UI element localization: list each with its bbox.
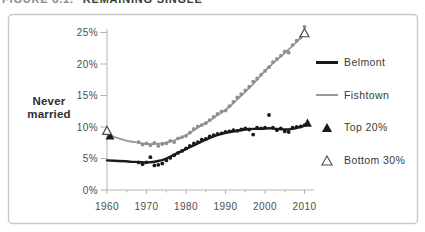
fishtown-dot: [149, 143, 153, 147]
belmont-dot: [204, 137, 208, 141]
y-tick-label: 20%: [77, 59, 98, 70]
belmont-dot: [220, 131, 224, 135]
belmont-dot: [149, 155, 153, 159]
y-tick-label: 5%: [83, 153, 98, 164]
belmont-dot: [216, 132, 220, 136]
belmont-dot: [259, 126, 263, 130]
fishtown-line-swatch: [316, 94, 338, 96]
belmont-dot: [141, 162, 145, 166]
belmont-dot: [291, 126, 295, 130]
legend-label-belmont: Belmont: [344, 56, 385, 68]
belmont-dot: [208, 135, 212, 139]
belmont-dot: [164, 159, 168, 163]
fishtown-dot: [259, 73, 263, 77]
belmont-dot: [224, 130, 228, 134]
belmont-line-swatch: [316, 61, 338, 64]
belmont-dot: [251, 133, 255, 137]
figure: FIGURE 8.1.REMAINING SINGLE 0%5%10%15%20…: [0, 0, 425, 232]
fishtown-dot: [200, 123, 204, 127]
y-axis-title-line1: Never: [20, 95, 78, 108]
y-tick-label: 10%: [77, 122, 98, 133]
fishtown-dot: [220, 109, 224, 113]
belmont-dot: [283, 130, 287, 134]
fishtown-dot: [247, 85, 251, 89]
belmont-dot: [145, 160, 149, 164]
x-tick-label: 2000: [253, 201, 277, 212]
fishtown-dot: [263, 69, 267, 73]
belmont-dot: [137, 160, 141, 164]
belmont-dot: [180, 149, 184, 153]
belmont-dot: [156, 163, 160, 167]
fishtown-dot: [267, 65, 271, 69]
fishtown-dot: [287, 51, 291, 55]
fishtown-dot: [208, 118, 212, 122]
belmont-dot: [200, 138, 204, 142]
belmont-dot: [168, 156, 172, 160]
fishtown-dot: [160, 142, 164, 146]
fishtown-dot: [224, 109, 228, 113]
fishtown-dot: [271, 60, 275, 64]
fishtown-dot: [168, 139, 172, 143]
y-axis-title: Never married: [20, 95, 78, 120]
legend-item-top20: Top 20%: [316, 121, 388, 133]
belmont-dot: [239, 128, 243, 132]
belmont-dot: [255, 126, 259, 130]
belmont-dot: [247, 128, 251, 132]
belmont-dot: [196, 140, 200, 144]
legend-label-top20: Top 20%: [344, 121, 388, 133]
belmont-dot: [279, 126, 283, 130]
y-tick-label: 25%: [77, 27, 98, 38]
legend-item-bottom30: Bottom 30%: [316, 154, 405, 166]
x-tick-label: 1980: [174, 201, 198, 212]
fishtown-dot: [283, 50, 287, 54]
belmont-dot: [232, 128, 236, 132]
x-tick-label: 1990: [214, 201, 238, 212]
belmont-dot: [160, 162, 164, 166]
legend-label-bottom30: Bottom 30%: [344, 154, 405, 166]
fishtown-dot: [164, 142, 168, 146]
fishtown-dot: [291, 43, 295, 47]
fishtown-dot: [153, 141, 157, 145]
fishtown-dot: [212, 115, 216, 119]
fishtown-dot: [279, 54, 283, 58]
fishtown-dot: [295, 39, 299, 43]
y-tick-label: 0%: [83, 185, 98, 196]
fishtown-dot: [255, 77, 259, 81]
belmont-dot: [287, 130, 291, 134]
fishtown-dot: [251, 80, 255, 84]
belmont-dot: [275, 128, 279, 132]
belmont-dot: [263, 126, 267, 130]
fishtown-dot: [192, 127, 196, 131]
belmont-dot: [153, 164, 157, 168]
fishtown-dot: [235, 96, 239, 100]
belmont-dot: [267, 113, 271, 117]
fishtown-dot: [243, 89, 247, 93]
fishtown-dot: [176, 136, 180, 140]
belmont-dot: [192, 142, 196, 146]
legend-item-belmont: Belmont: [316, 56, 385, 68]
fishtown-dot: [156, 144, 160, 148]
fishtown-dot: [141, 143, 145, 147]
belmont-dot: [243, 126, 247, 130]
belmont-dot: [299, 125, 303, 129]
fishtown-dot: [145, 142, 149, 146]
open-triangle-icon: [316, 155, 338, 166]
belmont-dot: [176, 151, 180, 155]
belmont-dot: [172, 153, 176, 157]
fishtown-dot: [204, 121, 208, 125]
x-tick-label: 1970: [135, 201, 159, 212]
fishtown-dot: [137, 140, 141, 144]
belmont-dot: [235, 129, 239, 133]
legend-item-fishtown: Fishtown: [316, 89, 389, 101]
y-tick-label: 15%: [77, 90, 98, 101]
y-axis-title-line2: married: [20, 108, 78, 121]
fishtown-dot: [275, 57, 279, 61]
belmont-dot: [188, 144, 192, 148]
fishtown-dot: [188, 131, 192, 135]
x-tick-label: 1960: [95, 201, 119, 212]
belmont-dot: [295, 125, 299, 129]
belmont-dot: [212, 133, 216, 137]
fishtown-dot: [228, 104, 232, 108]
filled-triangle-icon: [316, 122, 338, 133]
fishtown-dot: [172, 140, 176, 144]
